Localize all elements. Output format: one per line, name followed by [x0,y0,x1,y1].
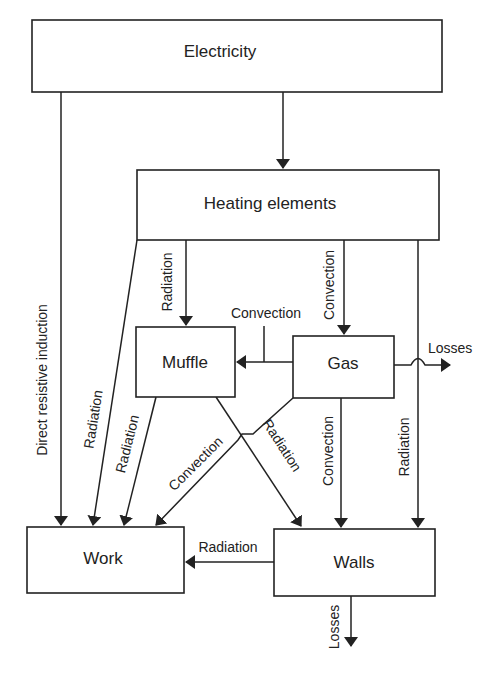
node-label: Walls [334,553,375,572]
label-muffle-work-radiation: Radiation [112,413,142,474]
node-label: Work [83,549,123,568]
node-gas: Gas [293,336,394,398]
label-heating-gas-convection: Convection [321,250,337,320]
node-heating-elements: Heating elements [137,170,439,240]
label-muffle-walls-radiation: Radiation [259,416,305,474]
edge-gas-losses [394,359,450,366]
label-gas-losses: Losses [428,340,472,356]
energy-flow-diagram: Electricity Heating elements Muffle Gas … [0,0,497,678]
label-walls-losses: Losses [326,605,342,649]
label-heating-muffle-radiation: Radiation [159,252,175,311]
label-gas-muffle-convection: Convection [231,305,301,321]
edge-heating-work [93,240,137,525]
node-label: Electricity [184,42,257,61]
label-direct-resistive-induction: Direct resistive induction [34,304,50,456]
node-electricity: Electricity [32,20,442,92]
node-walls: Walls [274,529,435,596]
label-heating-work-radiation: Radiation [81,389,106,450]
node-work: Work [27,527,184,593]
label-walls-work-radiation: Radiation [198,539,257,555]
node-muffle: Muffle [136,327,235,397]
node-label: Gas [327,354,358,373]
node-label: Muffle [162,353,208,372]
label-gas-walls-convection: Convection [320,416,336,486]
label-heating-walls-radiation: Radiation [396,417,412,476]
node-label: Heating elements [204,194,336,213]
